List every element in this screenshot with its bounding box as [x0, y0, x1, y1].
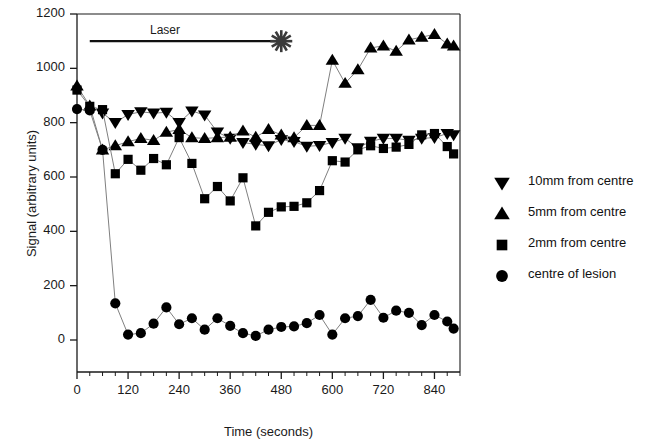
circle-icon [494, 268, 510, 284]
y-tick-label: 800 [19, 114, 65, 129]
data-point [377, 39, 390, 50]
data-point [404, 308, 414, 318]
legend-item: 5mm from centre [494, 199, 651, 230]
data-point [340, 313, 350, 323]
plot-frame [77, 14, 460, 372]
data-point [175, 133, 184, 142]
data-point [315, 186, 324, 195]
data-point [449, 149, 458, 158]
data-point [277, 202, 286, 211]
data-point [251, 221, 260, 230]
data-point [338, 134, 351, 145]
data-point [391, 306, 401, 316]
data-point [109, 118, 122, 129]
data-point [136, 328, 146, 338]
chart-legend: 10mm from centre5mm from centre2mm from … [494, 168, 651, 292]
data-series [72, 85, 458, 230]
y-tick-label: 600 [19, 168, 65, 183]
data-point [211, 131, 224, 142]
data-point [327, 329, 337, 339]
data-point [353, 145, 362, 154]
data-point [289, 321, 299, 331]
data-point [123, 329, 133, 339]
data-point [430, 129, 439, 138]
data-point [378, 313, 388, 323]
data-point [161, 302, 171, 312]
data-point [134, 132, 147, 143]
data-point [172, 123, 185, 134]
data-point [72, 85, 81, 94]
data-point [200, 194, 209, 203]
y-tick-label: 1200 [19, 5, 65, 20]
data-point [187, 313, 197, 323]
legend-item-label: 10mm from centre [528, 173, 633, 188]
legend-item-label: 2mm from centre [528, 235, 626, 250]
data-point [276, 322, 286, 332]
data-point [149, 319, 159, 329]
data-point [300, 142, 313, 153]
legend-item-label: 5mm from centre [528, 204, 626, 219]
data-point [313, 141, 326, 152]
x-tick-label: 360 [205, 382, 255, 397]
legend-item: centre of lesion [494, 261, 651, 292]
x-tick-label: 600 [307, 382, 357, 397]
data-point [136, 166, 145, 175]
data-point [449, 324, 459, 334]
data-point [226, 196, 235, 205]
laser-annotation-label: Laser [150, 23, 180, 37]
data-point [198, 110, 211, 121]
legend-item-label: centre of lesion [528, 266, 616, 281]
data-point [147, 109, 160, 120]
data-point [326, 54, 339, 65]
data-point [275, 128, 288, 139]
data-point [302, 318, 312, 328]
data-point [85, 105, 95, 115]
data-point [353, 311, 363, 321]
x-tick-label: 0 [52, 382, 102, 397]
data-point [98, 105, 107, 114]
data-point [225, 321, 235, 331]
triangle-down-icon [494, 175, 510, 191]
data-point [366, 141, 375, 150]
y-tick-label: 1000 [19, 59, 65, 74]
data-point [212, 313, 222, 323]
x-tick-label: 240 [154, 382, 204, 397]
data-point [238, 328, 248, 338]
x-tick-label: 480 [256, 382, 306, 397]
data-point [160, 108, 173, 119]
legend-item: 2mm from centre [494, 230, 651, 261]
triangle-up-icon [494, 206, 510, 222]
data-point [72, 104, 82, 114]
data-point [404, 140, 413, 149]
y-tick-label: 0 [19, 331, 65, 346]
y-tick-label: 200 [19, 277, 65, 292]
data-point [429, 310, 439, 320]
data-point [314, 310, 324, 320]
data-point [262, 123, 275, 134]
data-point [428, 28, 441, 39]
data-point [379, 144, 388, 153]
data-point [341, 157, 350, 166]
data-point [236, 124, 249, 135]
x-tick-label: 120 [103, 382, 153, 397]
data-point [366, 295, 376, 305]
data-point [149, 154, 158, 163]
data-point [185, 131, 198, 142]
axis-ticks [70, 14, 460, 379]
data-point [200, 325, 210, 335]
x-tick-label: 720 [358, 382, 408, 397]
data-point [238, 173, 247, 182]
data-point [121, 110, 134, 121]
data-point [417, 130, 426, 139]
data-point [300, 119, 313, 130]
legend-item: 10mm from centre [494, 168, 651, 199]
data-series-group [70, 28, 460, 341]
data-point [417, 320, 427, 330]
data-point [249, 131, 262, 142]
data-point [262, 141, 275, 152]
x-tick-label: 840 [409, 382, 459, 397]
data-point [289, 202, 298, 211]
data-point [264, 208, 273, 217]
square-icon [494, 237, 510, 253]
data-point [187, 159, 196, 168]
